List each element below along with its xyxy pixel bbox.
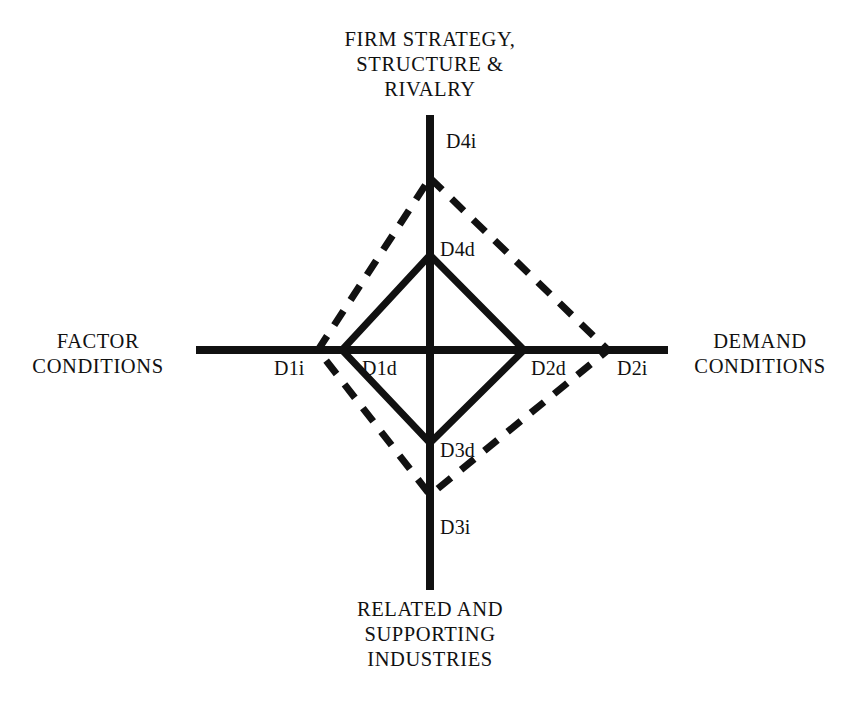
corner-label-demand-conditions: DEMAND CONDITIONS xyxy=(672,329,848,379)
determinant-label-d4i: D4i xyxy=(446,131,477,151)
determinant-label-d3i: D3i xyxy=(440,517,471,537)
porter-diamond-diagram: FIRM STRATEGY, STRUCTURE & RIVALRY DEMAN… xyxy=(0,0,848,709)
corner-label-related-supporting-industries: RELATED AND SUPPORTING INDUSTRIES xyxy=(300,597,560,672)
corner-label-factor-conditions: FACTOR CONDITIONS xyxy=(0,329,196,379)
determinant-label-d2i: D2i xyxy=(617,358,648,378)
determinant-label-d4d: D4d xyxy=(440,239,475,259)
corner-label-firm-strategy: FIRM STRATEGY, STRUCTURE & RIVALRY xyxy=(268,27,592,102)
determinant-label-d1i: D1i xyxy=(274,358,305,378)
determinant-label-d2d: D2d xyxy=(531,358,566,378)
determinant-label-d3d: D3d xyxy=(440,440,475,460)
determinant-label-d1d: D1d xyxy=(362,358,397,378)
